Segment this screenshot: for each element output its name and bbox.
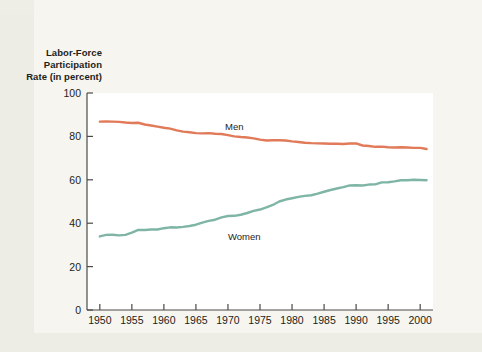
y-axis-tick-label: 40	[47, 218, 81, 228]
series-group	[100, 121, 427, 236]
chart-title: Labor-Force Participation Rate (in perce…	[4, 47, 102, 84]
y-axis-tick-label: 0	[47, 305, 81, 315]
chart-figure: Labor-Force Participation Rate (in perce…	[0, 0, 482, 352]
series-line-women	[100, 180, 427, 237]
y-axis-tick-label: 80	[47, 131, 81, 141]
axes-group	[87, 93, 433, 310]
plot-area	[87, 93, 433, 310]
chart-title-line-2: Participation	[4, 59, 102, 71]
series-label-men: Men	[225, 121, 243, 132]
y-axis-tick-label: 100	[47, 88, 81, 98]
y-axis-tick-label: 20	[47, 262, 81, 272]
series-label-women: Women	[228, 231, 261, 242]
x-axis-tick-label: 2000	[400, 315, 440, 326]
series-line-men	[100, 121, 427, 149]
y-axis-tick-label: 60	[47, 175, 81, 185]
chart-title-line-1: Labor-Force	[4, 47, 102, 59]
chart-title-line-3: Rate (in percent)	[4, 71, 102, 83]
chart-canvas	[87, 93, 433, 310]
